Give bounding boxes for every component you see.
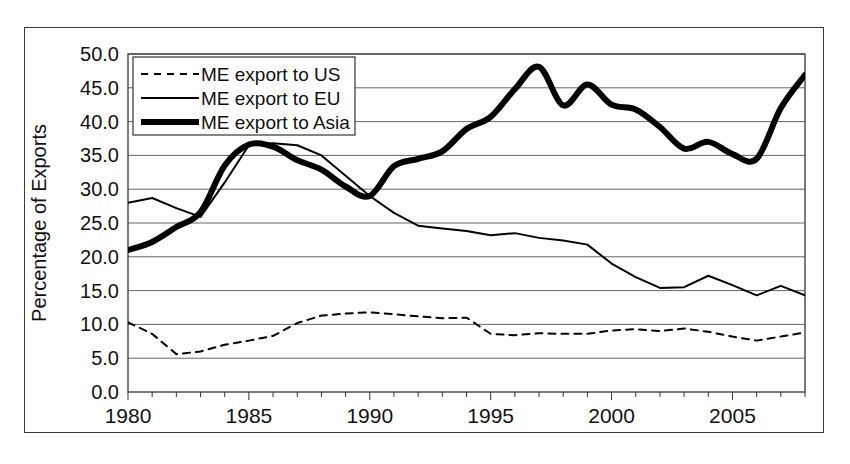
x-tick-label: 1980 (105, 404, 152, 427)
x-tick-label: 2000 (588, 404, 635, 427)
series-line-1 (128, 143, 805, 295)
legend-label-0: ME export to US (201, 64, 340, 85)
y-tick-label: 20.0 (80, 246, 119, 268)
y-tick-label: 5.0 (91, 347, 119, 369)
y-tick-label: 35.0 (80, 144, 119, 166)
series-line-0 (128, 312, 805, 354)
figure: 0.05.010.015.020.025.030.035.040.045.050… (0, 0, 850, 464)
x-tick-label: 1990 (346, 404, 393, 427)
legend-label-1: ME export to EU (201, 88, 340, 109)
y-tick-label: 50.0 (80, 43, 119, 65)
exports-line-chart: 0.05.010.015.020.025.030.035.040.045.050… (0, 0, 850, 464)
y-axis-label: Percentage of Exports (28, 124, 50, 322)
x-tick-label: 2005 (709, 404, 756, 427)
y-tick-label: 45.0 (80, 77, 119, 99)
y-tick-label: 30.0 (80, 178, 119, 200)
legend-label-2: ME export to Asia (201, 112, 350, 133)
y-tick-label: 25.0 (80, 212, 119, 234)
chart-legend: ME export to USME export to EUME export … (133, 57, 355, 135)
y-tick-label: 10.0 (80, 313, 119, 335)
y-tick-label: 0.0 (91, 381, 119, 403)
x-tick-label: 1995 (467, 404, 514, 427)
y-tick-label: 40.0 (80, 111, 119, 133)
x-tick-label: 1985 (226, 404, 273, 427)
y-tick-label: 15.0 (80, 280, 119, 302)
